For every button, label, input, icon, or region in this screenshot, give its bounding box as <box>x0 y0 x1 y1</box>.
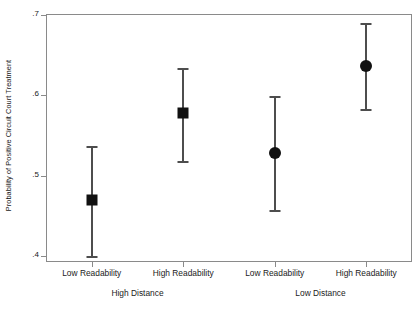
data-point-circle-marker <box>269 147 281 159</box>
x-tick-line <box>275 262 276 267</box>
error-bar-cap-lower <box>269 210 280 212</box>
error-bar-cap-lower <box>361 109 372 111</box>
chart-figure: Probability of Positive Circuit Court Tr… <box>0 0 418 311</box>
error-bar-cap-upper <box>86 146 97 148</box>
x-tick-label: High Readability <box>153 268 214 278</box>
y-tick: .6 <box>0 95 46 96</box>
x-tick-line <box>92 262 93 267</box>
x-group-label: Low Distance <box>295 288 345 298</box>
x-tick-label: High Readability <box>336 268 397 278</box>
error-bar-cap-lower <box>178 161 189 163</box>
y-tick: .5 <box>0 176 46 177</box>
y-tick: .7 <box>0 15 46 16</box>
x-tick-label: Low Readability <box>62 268 121 278</box>
error-bar-cap-upper <box>269 96 280 98</box>
x-group-label: High Distance <box>111 288 163 298</box>
y-axis-title: Probability of Positive Circuit Court Tr… <box>0 0 18 270</box>
y-tick-label: .5 <box>32 170 39 179</box>
y-tick-label: .7 <box>32 9 39 18</box>
x-tick-line <box>183 262 184 267</box>
error-bar-cap-upper <box>178 68 189 70</box>
y-axis-title-text: Probability of Positive Circuit Court Tr… <box>5 59 14 210</box>
data-point-square-marker <box>178 108 189 119</box>
error-bar-cap-lower <box>86 256 97 258</box>
plot-area <box>46 14 412 262</box>
x-tick-label: Low Readability <box>245 268 304 278</box>
data-point-circle-marker <box>360 60 372 72</box>
error-bar-cap-upper <box>361 23 372 25</box>
x-tick-line <box>366 262 367 267</box>
y-tick-label: .6 <box>32 89 39 98</box>
data-point-square-marker <box>86 194 97 205</box>
y-tick: .4 <box>0 256 46 257</box>
y-tick-label: .4 <box>32 250 39 259</box>
